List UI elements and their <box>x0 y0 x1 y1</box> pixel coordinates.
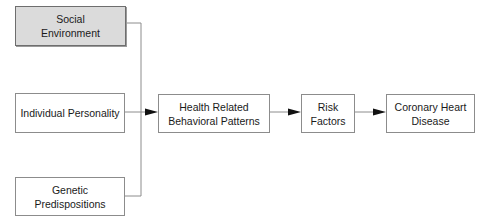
node-label: Behavioral Patterns <box>168 114 260 128</box>
node-individual-personality: Individual Personality <box>15 93 125 133</box>
node-label: Social <box>41 12 100 26</box>
node-genetic-predispositions: Genetic Predispositions <box>15 177 125 216</box>
diagram-canvas: Social Environment Individual Personalit… <box>0 0 489 220</box>
node-label: Genetic Predispositions <box>20 183 120 211</box>
arrowhead-icon <box>145 109 158 116</box>
node-label: Coronary Heart <box>395 100 467 114</box>
arrowhead-icon <box>288 109 301 116</box>
node-social-environment: Social Environment <box>15 6 126 46</box>
node-label: Factors <box>310 114 345 128</box>
node-risk-factors: Risk Factors <box>301 94 355 133</box>
node-label: Health Related <box>168 100 260 114</box>
node-label: Environment <box>41 26 100 40</box>
arrowhead-icon <box>373 109 386 116</box>
merge-connector <box>125 23 141 196</box>
node-coronary-heart-disease: Coronary Heart Disease <box>386 94 475 133</box>
node-label: Disease <box>395 114 467 128</box>
node-label: Risk <box>310 100 345 114</box>
node-label: Individual Personality <box>20 106 119 120</box>
node-health-behavioral-patterns: Health Related Behavioral Patterns <box>158 94 270 133</box>
